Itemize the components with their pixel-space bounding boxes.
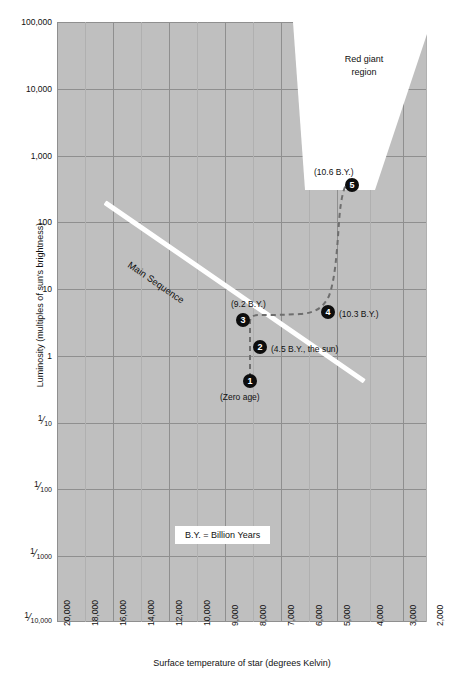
gridline-v-18000 [85,22,86,622]
marker-3-caption: (9.2 B.Y.) [231,299,266,309]
gridline-v-16000 [113,22,114,622]
y-tick-one-ten-thousandth: 1⁄10,000 [2,613,52,623]
y-tick-one-thousandth-denominator: 1000 [36,553,52,560]
gridline-v-5000 [337,22,338,622]
x-tick-3000: 3,000 [408,605,418,626]
gridline-v-20000 [57,22,58,622]
y-axis-title: Luminosity (multiples of sun's brightnes… [35,185,45,425]
x-tick-12000: 12,000 [174,600,184,626]
legend-note: B.Y. = Billion Years [175,526,270,544]
y-tick-one-thousandth-numerator: 1 [30,546,35,556]
x-tick-5000: 5,000 [342,605,352,626]
marker-2-caption: (4.5 B.Y., the sun) [271,344,338,354]
hr-diagram-figure: Main Sequence Red giant region (10.6 B.Y… [0,0,451,682]
marker-4-caption: (10.3 B.Y.) [339,309,379,319]
x-tick-14000: 14,000 [146,600,156,626]
y-tick-one-ten-thousandth-numerator: 1 [24,610,29,620]
gridline-v-2000 [426,22,427,622]
x-tick-6000: 6,000 [314,605,324,626]
gridline-v-3000 [403,22,404,622]
marker-5[interactable]: 5 [345,178,359,192]
x-tick-18000: 18,000 [90,600,100,626]
y-tick-100000: 100,000 [2,18,52,27]
y-tick-10000: 10,000 [2,85,52,94]
y-tick-one-ten-thousandth-denominator: 10,000 [31,617,52,624]
x-tick-2000: 2,000 [435,605,445,626]
plot-area: Main Sequence Red giant region (10.6 B.Y… [57,22,427,622]
marker-3[interactable]: 3 [236,313,250,327]
marker-2[interactable]: 2 [253,340,267,354]
y-tick-one-tenth-denominator: 10 [44,420,52,427]
gridline-v-12000 [169,22,170,622]
y-tick-1000: 1,000 [2,152,52,161]
gridline-v-6000 [309,22,310,622]
gridline-v-4000 [370,22,371,622]
x-axis-title: Surface temperature of star (degrees Kel… [57,658,427,668]
y-tick-one-hundredth-denominator: 100 [40,486,52,493]
red-giant-label-line2: region [319,67,409,78]
red-giant-polygon [293,22,427,190]
x-tick-20000: 20,000 [62,600,72,626]
x-tick-9000: 9,000 [230,605,240,626]
red-giant-label-line1: Red giant [319,54,409,65]
marker-4[interactable]: 4 [321,305,335,319]
x-tick-16000: 16,000 [118,600,128,626]
marker-5-caption: (10.6 B.Y.) [314,167,354,177]
marker-1[interactable]: 1 [243,374,257,388]
x-tick-8000: 8,000 [258,605,268,626]
gridline-v-14000 [141,22,142,622]
y-tick-one-thousandth: 1⁄1000 [2,549,52,559]
y-tick-one-hundredth: 1⁄100 [2,482,52,492]
x-tick-10000: 10,000 [202,600,212,626]
y-tick-one-hundredth-numerator: 1 [34,479,39,489]
x-tick-7000: 7,000 [286,605,296,626]
x-tick-4000: 4,000 [375,605,385,626]
main-sequence-label: Main Sequence [126,259,187,306]
marker-1-caption: (Zero age) [220,392,260,402]
